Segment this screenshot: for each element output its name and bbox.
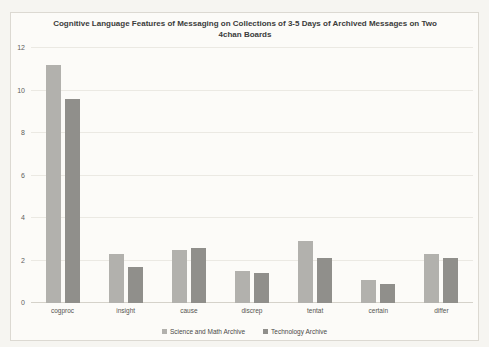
bars-container	[31, 48, 473, 303]
legend-item-technology-archive: Technology Archive	[263, 328, 327, 335]
bar	[191, 248, 206, 303]
legend: Science and Math Archive Technology Arch…	[11, 328, 478, 335]
bar	[172, 250, 187, 303]
legend-marker-icon	[162, 329, 167, 334]
y-axis-tick-label: 6	[21, 172, 25, 179]
bar-chart: Cognitive Language Features of Messaging…	[10, 12, 479, 341]
bar	[380, 284, 395, 303]
bar	[109, 254, 124, 303]
x-axis: cogprocinsightcausediscreptentatcertaind…	[31, 307, 473, 314]
y-axis-tick-label: 0	[21, 299, 25, 306]
bar-group-cause	[157, 48, 220, 303]
bar	[254, 273, 269, 303]
y-axis-tick-label: 12	[17, 44, 25, 51]
chart-title: Cognitive Language Features of Messaging…	[45, 19, 445, 41]
bar-group-differ	[410, 48, 473, 303]
x-axis-label: cogproc	[31, 307, 94, 314]
bar-group-discrep	[220, 48, 283, 303]
bar	[424, 254, 439, 303]
bar	[65, 99, 80, 303]
bar	[298, 241, 313, 303]
bar	[235, 271, 250, 303]
legend-item-science-math-archive: Science and Math Archive	[162, 328, 245, 335]
plot-area	[31, 48, 473, 303]
bar	[361, 280, 376, 303]
y-axis: 024681012	[11, 48, 28, 303]
x-axis-label: discrep	[220, 307, 283, 314]
bar-group-insight	[94, 48, 157, 303]
bar-group-tentat	[284, 48, 347, 303]
x-axis-label: cause	[157, 307, 220, 314]
x-axis-label: certain	[347, 307, 410, 314]
x-axis-label: tentat	[284, 307, 347, 314]
bar-group-cogproc	[31, 48, 94, 303]
bar	[317, 258, 332, 303]
y-axis-tick-label: 10	[17, 87, 25, 94]
legend-label: Science and Math Archive	[170, 328, 245, 335]
bar	[128, 267, 143, 303]
x-axis-label: differ	[410, 307, 473, 314]
bar-group-certain	[347, 48, 410, 303]
page: Cognitive Language Features of Messaging…	[0, 0, 489, 347]
y-axis-tick-label: 2	[21, 257, 25, 264]
y-axis-tick-label: 8	[21, 129, 25, 136]
legend-marker-icon	[263, 329, 268, 334]
y-axis-tick-label: 4	[21, 214, 25, 221]
bar	[443, 258, 458, 303]
x-axis-label: insight	[94, 307, 157, 314]
legend-label: Technology Archive	[271, 328, 327, 335]
bar	[46, 65, 61, 303]
